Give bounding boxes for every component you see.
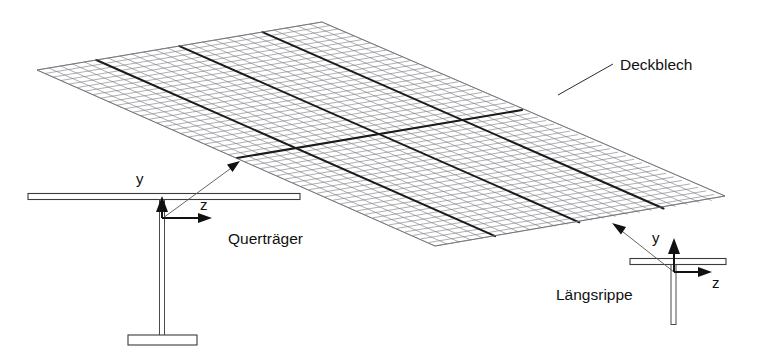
deckblech-label: Deckblech <box>620 56 692 73</box>
longitudinal-rib-section <box>630 259 726 325</box>
orthotropic-deck-diagram: Deckblech y z Querträger <box>0 0 758 361</box>
longitudinal-rib-web <box>671 265 676 325</box>
deckblech-leader <box>558 64 613 95</box>
cross-girder-section <box>28 194 300 346</box>
longitudinal-rib-z-arrowhead <box>698 267 712 277</box>
longitudinal-rib-flange <box>630 259 726 265</box>
cross-girder-y-label: y <box>136 170 144 187</box>
cross-girder-top-flange <box>28 194 300 200</box>
diagram-canvas: Deckblech y z Querträger <box>0 0 758 361</box>
cross-girder-z-label: z <box>200 196 208 213</box>
longitudinal-rib-axes <box>668 238 712 277</box>
quertraeger-label: Querträger <box>228 230 303 247</box>
cross-girder-web <box>160 200 165 336</box>
longitudinal-rib-y-arrowhead <box>668 238 680 254</box>
laengsrippe-label: Längsrippe <box>556 286 633 303</box>
longitudinal-rib-z-label: z <box>712 274 720 291</box>
longitudinal-rib-y-label: y <box>652 229 660 246</box>
cross-girder-z-arrowhead <box>198 213 212 223</box>
cross-girder-leader-arrowhead <box>227 161 240 172</box>
cross-girder-bottom-flange <box>128 335 197 345</box>
